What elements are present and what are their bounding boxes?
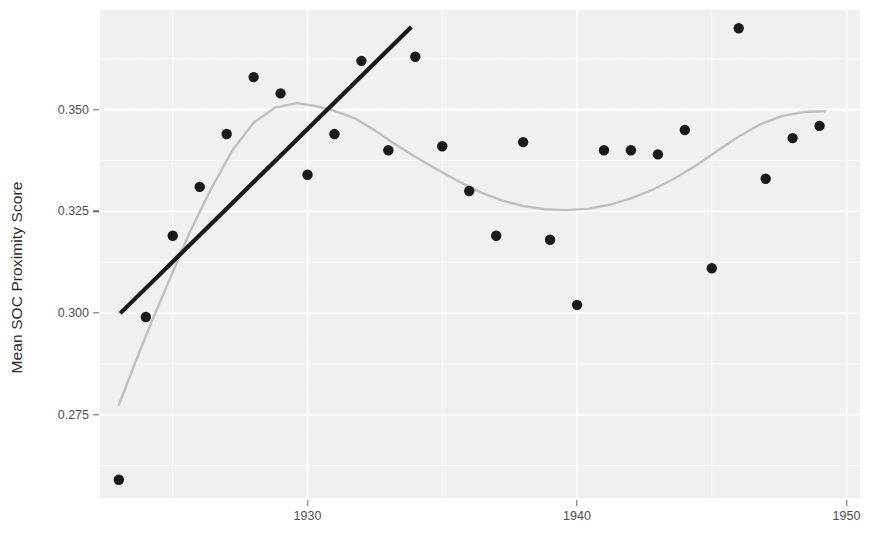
scatter-point bbox=[599, 145, 609, 155]
scatter-point bbox=[545, 235, 555, 245]
scatter-point bbox=[787, 133, 797, 143]
scatter-point bbox=[680, 125, 690, 135]
x-axis-tick-label: 1940 bbox=[563, 509, 591, 523]
scatter-point bbox=[168, 231, 178, 241]
scatter-point bbox=[356, 56, 366, 66]
x-axis-tick-label: 1930 bbox=[294, 509, 322, 523]
x-axis-tick-mark bbox=[846, 500, 847, 506]
chart-figure: Mean SOC Proximity Score 0.2750.3000.325… bbox=[0, 0, 870, 555]
scatter-point bbox=[707, 263, 717, 273]
scatter-point bbox=[383, 145, 393, 155]
y-axis-tick-mark bbox=[93, 312, 99, 313]
y-axis-title: Mean SOC Proximity Score bbox=[0, 0, 34, 555]
scatter-point bbox=[410, 52, 420, 62]
scatter-point bbox=[760, 174, 770, 184]
y-axis-tick-label: 0.275 bbox=[27, 408, 89, 422]
scatter-point bbox=[626, 145, 636, 155]
scatter-point bbox=[464, 186, 474, 196]
scatter-point bbox=[653, 149, 663, 159]
gridlines bbox=[100, 10, 860, 498]
scatter-point bbox=[275, 88, 285, 98]
y-axis-tick-mark bbox=[93, 211, 99, 212]
scatter-point bbox=[734, 23, 744, 33]
scatter-point bbox=[248, 72, 258, 82]
x-axis-tick-mark bbox=[576, 500, 577, 506]
x-axis-tick-label: 1950 bbox=[833, 509, 861, 523]
y-axis-tick-mark bbox=[93, 414, 99, 415]
scatter-point bbox=[572, 300, 582, 310]
y-axis-tick-label: 0.325 bbox=[27, 204, 89, 218]
y-axis-tick-label: 0.350 bbox=[27, 103, 89, 117]
scatter-point bbox=[814, 121, 824, 131]
plot-panel bbox=[100, 10, 860, 498]
scatter-point bbox=[195, 182, 205, 192]
scatter-point bbox=[437, 141, 447, 151]
scatter-points bbox=[114, 23, 825, 485]
scatter-point bbox=[141, 312, 151, 322]
scatter-point bbox=[518, 137, 528, 147]
x-axis-tick-mark bbox=[307, 500, 308, 506]
scatter-point bbox=[329, 129, 339, 139]
loess-smooth-line bbox=[119, 103, 825, 405]
y-axis-tick-mark bbox=[93, 109, 99, 110]
scatter-point bbox=[302, 170, 312, 180]
linear-trend-line bbox=[120, 27, 411, 313]
plot-canvas bbox=[100, 10, 860, 498]
y-axis-tick-label: 0.300 bbox=[27, 306, 89, 320]
scatter-point bbox=[491, 231, 501, 241]
scatter-point bbox=[221, 129, 231, 139]
scatter-point bbox=[114, 475, 124, 485]
